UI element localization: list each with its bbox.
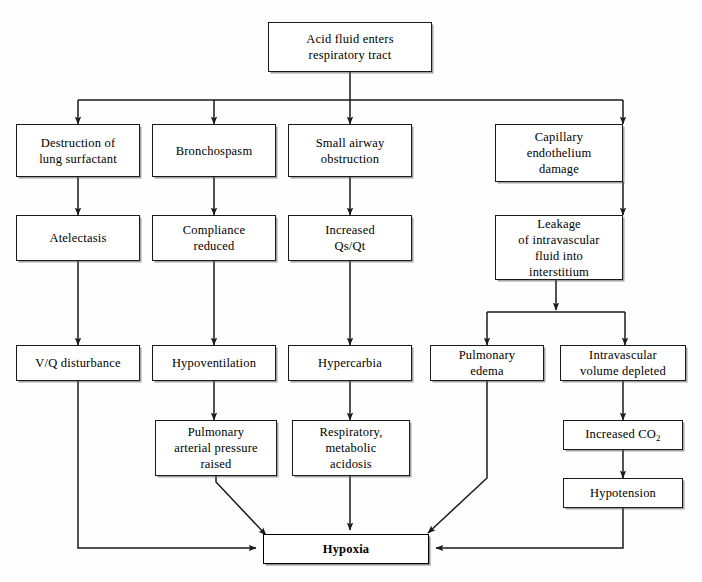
node-increased-co2-label: Increased CO2 [581,426,664,444]
node-compliance-reduced[interactable]: Compliance reduced [152,215,276,261]
node-atelectasis[interactable]: Atelectasis [16,215,140,261]
edge-papraised-hypoxia [216,476,266,535]
node-acid-fluid-label: Acid fluid enters respiratory tract [302,31,397,63]
node-hypercarbia[interactable]: Hypercarbia [288,345,412,381]
node-pulmonary-edema-label: Pulmonary edema [455,347,520,379]
node-vq-disturbance[interactable]: V/Q disturbance [16,345,140,381]
node-capillary-endothelium-damage-label: Capillary endothelium damage [523,129,596,177]
node-bronchospasm[interactable]: Bronchospasm [152,124,276,177]
node-pulmonary-arterial-pressure-raised[interactable]: Pulmonary arterial pressure raised [155,420,277,476]
node-destruction-lung-surfactant[interactable]: Destruction of lung surfactant [16,124,140,177]
node-leakage-intravascular-fluid-label: Leakage of intravascular fluid into inte… [514,216,603,280]
node-vq-disturbance-label: V/Q disturbance [31,355,124,371]
node-increased-qs-qt-label: Increased Qs/Qt [321,222,379,254]
node-pulmonary-edema[interactable]: Pulmonary edema [430,345,544,381]
node-hypercarbia-label: Hypercarbia [314,355,386,371]
node-destruction-lung-surfactant-label: Destruction of lung surfactant [35,135,121,167]
node-intravascular-volume-depleted[interactable]: Intravascular volume depleted [560,345,686,381]
node-compliance-reduced-label: Compliance reduced [179,222,249,254]
node-intravascular-volume-depleted-label: Intravascular volume depleted [576,347,670,379]
node-respiratory-metabolic-acidosis-label: Respiratory, metabolic acidosis [315,424,386,472]
node-hypotension[interactable]: Hypotension [563,478,683,508]
node-capillary-endothelium-damage[interactable]: Capillary endothelium damage [495,124,623,182]
flowchart-canvas: Acid fluid enters respiratory tract Dest… [0,0,702,582]
edge-pulmedema-hypoxia [428,381,487,533]
node-hypoventilation[interactable]: Hypoventilation [152,345,276,381]
node-increased-qs-qt[interactable]: Increased Qs/Qt [288,215,412,261]
node-respiratory-metabolic-acidosis[interactable]: Respiratory, metabolic acidosis [292,420,410,476]
edge-hypotension-hypoxia [436,508,623,548]
node-atelectasis-label: Atelectasis [45,230,110,246]
node-acid-fluid[interactable]: Acid fluid enters respiratory tract [268,22,432,72]
node-hypoxia-label: Hypoxia [319,541,374,557]
node-pulmonary-arterial-pressure-raised-label: Pulmonary arterial pressure raised [170,424,262,472]
node-small-airway-obstruction-label: Small airway obstruction [312,135,389,167]
node-small-airway-obstruction[interactable]: Small airway obstruction [288,124,412,177]
node-increased-co2[interactable]: Increased CO2 [563,420,683,450]
node-leakage-intravascular-fluid[interactable]: Leakage of intravascular fluid into inte… [495,215,623,280]
node-hypoventilation-label: Hypoventilation [168,355,260,371]
node-bronchospasm-label: Bronchospasm [172,143,257,159]
node-hypotension-label: Hypotension [586,485,660,501]
node-hypoxia[interactable]: Hypoxia [263,534,429,564]
